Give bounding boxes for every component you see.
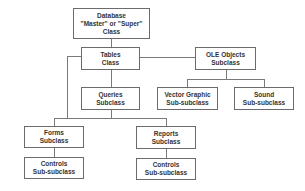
connector-forms-controls bbox=[54, 148, 55, 157]
connector-tables-left-drop bbox=[67, 56, 68, 118]
node-forms: Forms Subclass bbox=[24, 126, 84, 148]
node-database-title: Database bbox=[97, 12, 126, 20]
node-tables-kind: Class bbox=[102, 59, 119, 67]
node-vector-graphic-title: Vector Graphic bbox=[164, 91, 210, 99]
connector-lower-bus bbox=[54, 118, 167, 119]
node-sound: Sound Sub-subclass bbox=[234, 87, 294, 110]
node-database: Database "Master" or "Super" Class bbox=[73, 8, 150, 39]
node-queries-title: Queries bbox=[98, 91, 122, 99]
node-reports: Reports Subclass bbox=[136, 126, 196, 149]
node-tables: Tables Class bbox=[81, 47, 140, 70]
node-ole-objects: OLE Objects Subclass bbox=[195, 47, 256, 70]
node-forms-controls: Controls Sub-subclass bbox=[24, 157, 84, 179]
node-forms-controls-kind: Sub-subclass bbox=[33, 168, 75, 176]
node-queries: Queries Subclass bbox=[81, 87, 140, 110]
node-tables-title: Tables bbox=[100, 51, 120, 59]
node-database-subtitle: "Master" or "Super" bbox=[81, 20, 143, 28]
connector-ole-down bbox=[226, 70, 227, 79]
connector-queries-down bbox=[111, 110, 112, 118]
connector-database-tables bbox=[111, 39, 112, 47]
connector-bus-forms bbox=[54, 118, 55, 126]
node-vector-graphic: Vector Graphic Sub-subclass bbox=[157, 87, 218, 110]
node-reports-title: Reports bbox=[154, 130, 179, 138]
class-hierarchy-diagram: Database "Master" or "Super" Class Table… bbox=[0, 0, 305, 191]
node-forms-kind: Subclass bbox=[40, 137, 69, 145]
node-ole-objects-title: OLE Objects bbox=[206, 51, 245, 59]
connector-bus-sound bbox=[264, 79, 265, 87]
node-forms-controls-title: Controls bbox=[41, 160, 68, 168]
node-ole-objects-kind: Subclass bbox=[211, 59, 240, 67]
node-reports-controls: Controls Sub-subclass bbox=[136, 158, 196, 180]
connector-ole-bus bbox=[187, 79, 265, 80]
node-reports-controls-kind: Sub-subclass bbox=[145, 169, 187, 177]
connector-bus-reports bbox=[166, 118, 167, 126]
node-queries-kind: Subclass bbox=[96, 99, 125, 107]
connector-tables-queries bbox=[111, 70, 112, 87]
connector-reports-controls bbox=[166, 149, 167, 158]
node-reports-kind: Subclass bbox=[152, 138, 181, 146]
node-sound-kind: Sub-subclass bbox=[243, 99, 285, 107]
node-database-kind: Class bbox=[103, 28, 120, 36]
node-vector-graphic-kind: Sub-subclass bbox=[166, 99, 208, 107]
node-reports-controls-title: Controls bbox=[153, 161, 180, 169]
connector-tables-left-stub bbox=[67, 56, 81, 57]
connector-tables-ole bbox=[140, 57, 195, 58]
node-forms-title: Forms bbox=[44, 129, 64, 137]
connector-bus-vector bbox=[187, 79, 188, 87]
node-sound-title: Sound bbox=[254, 91, 274, 99]
